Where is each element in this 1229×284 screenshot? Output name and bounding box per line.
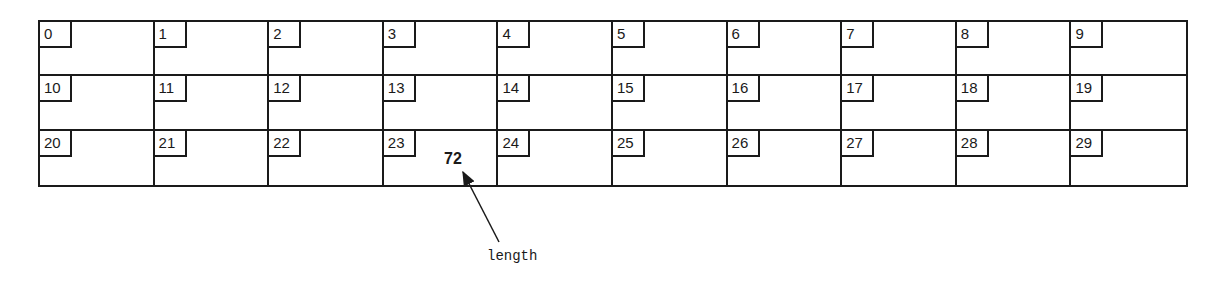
cell-index-label: 9 [1071,22,1103,48]
cell-index-label: 10 [40,76,72,102]
array-cell: 5 [613,22,728,76]
cell-index-label: 24 [498,131,530,157]
cell-index-label: 8 [957,22,989,48]
array-cell: 6 [728,22,843,76]
cell-index-label: 14 [498,76,530,102]
cell-index-label: 28 [957,131,989,157]
cell-index-label: 17 [842,76,874,102]
cell-index-label: 16 [728,76,760,102]
array-cell: 8 [957,22,1072,76]
array-cell: 29 [1071,131,1186,185]
cell-index-label: 11 [155,76,187,102]
cell-index-label: 29 [1071,131,1103,157]
array-cell: 11 [155,76,270,130]
cell-index-label: 7 [842,22,874,48]
cell-index-label: 18 [957,76,989,102]
array-cell: 3 [384,22,499,76]
cell-index-label: 19 [1071,76,1103,102]
cell-index-label: 22 [269,131,301,157]
cell-index-label: 3 [384,22,416,48]
cell-index-label: 21 [155,131,187,157]
cell-index-label: 27 [842,131,874,157]
array-cell: 23 [384,131,499,185]
array-cell: 12 [269,76,384,130]
array-cell: 10 [40,76,155,130]
length-label: length [487,248,537,264]
array-cell: 9 [1071,22,1186,76]
array-cell: 24 [498,131,613,185]
array-cell: 18 [957,76,1072,130]
array-cell: 20 [40,131,155,185]
array-cell: 28 [957,131,1072,185]
array-cell: 22 [269,131,384,185]
array-cell: 14 [498,76,613,130]
cell-index-label: 5 [613,22,645,48]
cell-index-label: 0 [40,22,72,48]
array-cell: 1 [155,22,270,76]
cell-value-length: 72 [444,150,462,168]
array-cell: 16 [728,76,843,130]
array-cell: 26 [728,131,843,185]
array-cell: 17 [842,76,957,130]
cell-index-label: 20 [40,131,72,157]
cell-index-label: 23 [384,131,416,157]
array-cell: 19 [1071,76,1186,130]
array-cell: 15 [613,76,728,130]
cell-index-label: 12 [269,76,301,102]
cell-index-label: 15 [613,76,645,102]
array-cell: 25 [613,131,728,185]
cell-index-label: 13 [384,76,416,102]
array-cell: 27 [842,131,957,185]
cell-index-label: 6 [728,22,760,48]
array-cell: 21 [155,131,270,185]
array-grid: 0123456789101112131415161718192021222324… [38,20,1188,187]
cell-index-label: 4 [498,22,530,48]
array-cell: 7 [842,22,957,76]
cell-index-label: 1 [155,22,187,48]
array-cell: 4 [498,22,613,76]
array-cell: 0 [40,22,155,76]
array-cell: 13 [384,76,499,130]
array-cell: 2 [269,22,384,76]
cell-index-label: 26 [728,131,760,157]
cell-index-label: 2 [269,22,301,48]
cell-index-label: 25 [613,131,645,157]
